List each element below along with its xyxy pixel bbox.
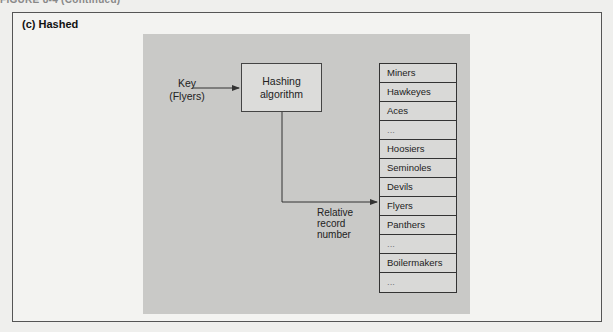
record-row: Miners	[380, 64, 456, 83]
record-list: Miners Hawkeyes Aces ... Hoosiers Semino…	[379, 63, 457, 293]
record-row: Boilermakers	[380, 254, 456, 273]
relative-record-number-label: Relative record number	[317, 207, 353, 240]
record-row-ellipsis: ...	[380, 121, 456, 140]
record-row: Aces	[380, 102, 456, 121]
record-row: Hoosiers	[380, 140, 456, 159]
connector-arrows	[0, 0, 613, 332]
record-row: Hawkeyes	[380, 83, 456, 102]
record-row-ellipsis: ...	[380, 235, 456, 254]
record-row: Devils	[380, 178, 456, 197]
record-row: Seminoles	[380, 159, 456, 178]
record-row-ellipsis: ...	[380, 273, 456, 292]
hash-to-record-arrow	[282, 112, 377, 202]
record-row-target: Flyers	[380, 197, 456, 216]
record-row: Panthers	[380, 216, 456, 235]
